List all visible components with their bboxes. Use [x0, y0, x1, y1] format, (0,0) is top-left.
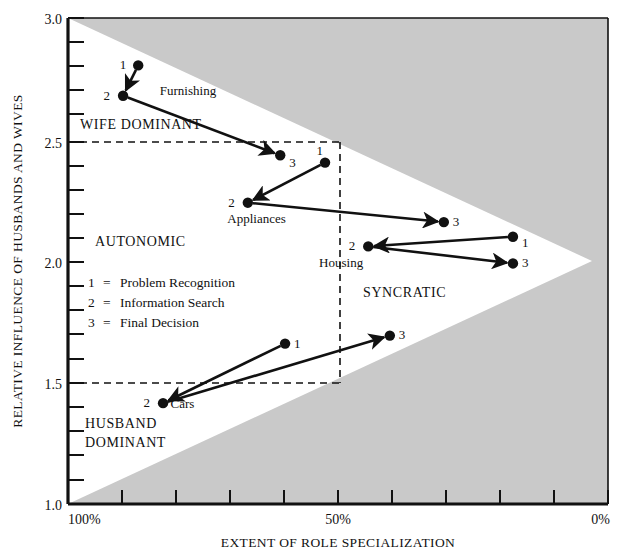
x-axis-title: EXTENT OF ROLE SPECIALIZATION	[221, 535, 455, 550]
datapoint-furnishing-3	[275, 150, 285, 160]
x-axis-tick-labels: 100% 50% 0%	[68, 512, 610, 527]
stage-number-furnishing-1: 1	[120, 57, 127, 72]
x-tick-label-0: 0%	[591, 512, 610, 527]
legend-key-2: 2	[88, 295, 95, 310]
datapoint-cars-3	[385, 330, 395, 340]
y-axis-tick-labels: 3.0 2.5 2.0 1.5 1.0	[45, 12, 63, 513]
stage-number-furnishing-3: 3	[289, 155, 296, 170]
y-axis-ticks	[68, 18, 84, 504]
y-tick-label-3-0: 3.0	[45, 12, 63, 27]
datapoint-appliances-1	[320, 157, 330, 167]
legend-label-3: Final Decision	[120, 315, 199, 330]
stage-number-furnishing-2: 2	[104, 88, 111, 103]
stage-number-appliances-3: 3	[453, 214, 460, 229]
datapoint-furnishing-2	[118, 91, 128, 101]
stage-number-housing-3: 3	[522, 255, 529, 270]
series-label-appliances: Appliances	[227, 211, 285, 226]
stage-number-cars-2: 2	[144, 395, 151, 410]
y-axis-title: RELATIVE INFLUENCE OF HUSBANDS AND WIVES	[10, 94, 25, 427]
chart-figure: 3.0 2.5 2.0 1.5 1.0 100% 50% 0% EXTENT O…	[0, 0, 628, 553]
legend-equals-3: =	[103, 315, 111, 330]
region-label-syncratic: SYNCRATIC	[363, 285, 446, 300]
stage-number-appliances-1: 1	[317, 143, 324, 158]
datapoint-housing-1	[508, 232, 518, 242]
legend-label-2: Information Search	[120, 295, 225, 310]
series-label-furnishing: Furnishing	[160, 83, 217, 98]
legend-label-1: Problem Recognition	[120, 275, 235, 290]
y-tick-label-2-5: 2.5	[45, 136, 63, 151]
region-label-husband-dominant-line1: HUSBAND	[85, 416, 157, 431]
legend-key-1: 1	[88, 275, 95, 290]
region-label-husband-dominant-line2: DOMINANT	[85, 435, 166, 450]
legend-equals-2: =	[103, 295, 111, 310]
stage-number-housing-1: 1	[522, 235, 529, 250]
legend-equals-1: =	[103, 275, 111, 290]
y-tick-label-1-0: 1.0	[45, 498, 63, 513]
stage-number-appliances-2: 2	[228, 195, 235, 210]
datapoint-housing-2	[363, 241, 373, 251]
series-label-cars: Cars	[171, 396, 195, 411]
datapoint-appliances-3	[439, 217, 449, 227]
datapoint-cars-2	[158, 398, 168, 408]
legend-key-3: 3	[88, 315, 95, 330]
role-specialization-scatter-chart: 3.0 2.5 2.0 1.5 1.0 100% 50% 0% EXTENT O…	[0, 0, 628, 553]
stage-number-cars-3: 3	[399, 327, 406, 342]
y-tick-label-2-0: 2.0	[45, 256, 63, 271]
x-tick-label-100: 100%	[68, 512, 101, 527]
datapoint-cars-1	[280, 338, 290, 348]
y-tick-label-1-5: 1.5	[45, 377, 63, 392]
x-tick-label-50: 50%	[325, 512, 351, 527]
series-label-housing: Housing	[319, 255, 364, 270]
stage-number-housing-2: 2	[349, 238, 356, 253]
region-label-autonomic: AUTONOMIC	[95, 234, 186, 249]
datapoint-furnishing-1	[133, 60, 143, 70]
datapoint-housing-3	[508, 258, 518, 268]
stage-number-cars-1: 1	[294, 336, 301, 351]
datapoint-appliances-2	[243, 197, 253, 207]
